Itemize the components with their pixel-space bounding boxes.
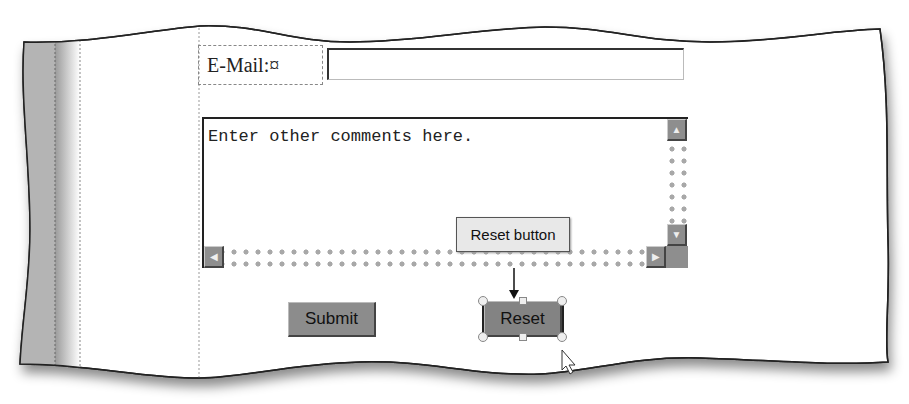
scroll-right-icon: ▶ <box>652 251 660 262</box>
email-input[interactable] <box>327 48 684 80</box>
scroll-left-button[interactable]: ◀ <box>204 246 224 268</box>
resize-handle-top[interactable] <box>519 297 527 305</box>
scroll-down-button[interactable]: ▼ <box>667 224 687 246</box>
comments-text: Enter other comments here. <box>208 127 473 146</box>
scroll-left-icon: ◀ <box>210 251 218 262</box>
scroll-right-button[interactable]: ▶ <box>646 246 666 268</box>
scrollbar-corner <box>666 246 688 268</box>
scroll-up-icon: ▲ <box>672 124 682 135</box>
resize-handle-bottom-left[interactable] <box>478 332 488 342</box>
resize-handle-top-right[interactable] <box>557 296 567 306</box>
resize-handle-bottom[interactable] <box>519 333 527 341</box>
resize-handle-bottom-right[interactable] <box>557 332 567 342</box>
scroll-down-icon: ▼ <box>672 229 682 240</box>
left-margin-gradient <box>55 0 80 404</box>
email-label: E-Mail:¤ <box>207 54 279 77</box>
email-label-cell: E-Mail:¤ <box>198 45 323 85</box>
submit-button[interactable]: Submit <box>288 302 376 337</box>
resize-handle-top-left[interactable] <box>478 296 488 306</box>
vertical-scrollbar[interactable]: ▲ ▼ <box>666 119 688 246</box>
reset-button-callout: Reset button <box>456 217 570 252</box>
horizontal-scrollbar[interactable]: ◀ ▶ <box>204 246 666 268</box>
left-margin-gray <box>0 0 55 404</box>
comments-textarea[interactable]: Enter other comments here. ▲ ▼ ◀ ▶ <box>202 117 688 268</box>
selection-frame <box>482 301 564 337</box>
scroll-up-button[interactable]: ▲ <box>667 119 687 141</box>
